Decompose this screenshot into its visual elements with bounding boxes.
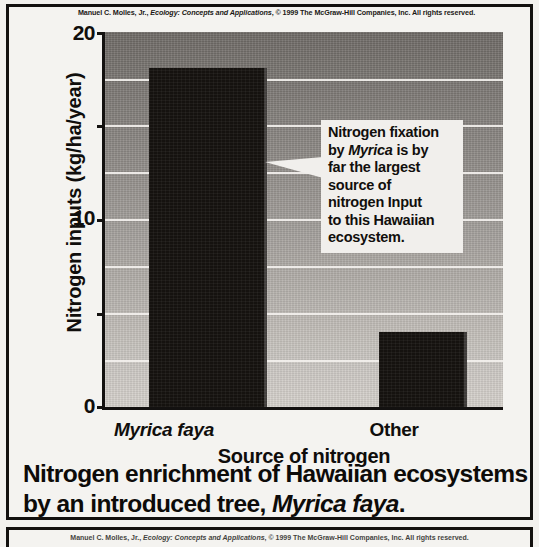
callout-line-2-pre: by bbox=[328, 142, 348, 158]
credit-book-title: Ecology: Concepts and Applications bbox=[150, 8, 271, 17]
callout-genus-name: Myrica bbox=[348, 142, 392, 158]
y-axis-title: Nitrogen inputs (kg/ha/year) bbox=[63, 38, 86, 368]
y-axis-line bbox=[102, 32, 105, 410]
bar-texture-1 bbox=[149, 68, 267, 407]
figure-frame: Manuel C. Molles, Jr., Ecology: Concepts… bbox=[6, 4, 533, 520]
y-tick-label-20: 20 bbox=[61, 21, 95, 45]
caption-line-2-pre: by an introduced tree, bbox=[23, 490, 272, 517]
callout-line-6: to this Hawaiian bbox=[328, 212, 458, 230]
callout-line-1: Nitrogen fixation bbox=[328, 124, 458, 142]
callout-line-7: ecosystem. bbox=[328, 229, 458, 247]
bottom-credit-suffix: , © 1999 The McGraw-Hill Companies, Inc.… bbox=[265, 534, 469, 541]
caption-line-1: Nitrogen enrichment of Hawaiian ecosyste… bbox=[23, 459, 533, 489]
bottom-credit-prefix: Manuel C. Molles, Jr., bbox=[70, 534, 143, 541]
callout-line-2: by Myrica is by bbox=[328, 142, 458, 160]
x-category-label-other: Other bbox=[335, 419, 453, 441]
credit-suffix: , © 1999 The McGraw-Hill Companies, Inc.… bbox=[272, 8, 475, 17]
figure-caption: Nitrogen enrichment of Hawaiian ecosyste… bbox=[23, 459, 533, 519]
callout-annotation: Nitrogen fixation by Myrica is by far th… bbox=[321, 120, 463, 253]
bottom-credit-strip: Manuel C. Molles, Jr., Ecology: Concepts… bbox=[6, 527, 533, 547]
callout-line-5: nitrogen Input bbox=[328, 194, 458, 212]
x-category-label-myrica-faya: Myrica faya bbox=[105, 419, 223, 441]
credit-prefix: Manuel C. Molles, Jr., bbox=[78, 8, 150, 17]
bottom-credit-book-title: Ecology: Concepts and Applications bbox=[143, 534, 264, 541]
y-tick-label-0: 0 bbox=[61, 394, 95, 418]
callout-line-2-post: is by bbox=[393, 142, 429, 158]
callout-line-3: far the largest bbox=[328, 159, 458, 177]
bottom-copyright-credit: Manuel C. Molles, Jr., Ecology: Concepts… bbox=[9, 534, 530, 541]
callout-pointer bbox=[265, 157, 323, 178]
caption-line-2: by an introduced tree, Myrica faya. bbox=[23, 489, 533, 519]
x-axis-line bbox=[102, 407, 503, 410]
bar-chart: Nitrogen inputs (kg/ha/year) 20 10 0 bbox=[9, 21, 530, 421]
bar-myrica-faya bbox=[149, 68, 267, 407]
top-copyright-credit: Manuel C. Molles, Jr., Ecology: Concepts… bbox=[19, 8, 534, 17]
bar-texture-2 bbox=[379, 332, 467, 407]
y-tick-label-10: 10 bbox=[61, 206, 95, 230]
caption-line-2-post: . bbox=[399, 490, 405, 517]
figure-page: Manuel C. Molles, Jr., Ecology: Concepts… bbox=[0, 0, 539, 547]
bar-other bbox=[379, 332, 467, 407]
caption-species-name: Myrica faya bbox=[272, 490, 399, 517]
callout-line-4: source of bbox=[328, 177, 458, 195]
